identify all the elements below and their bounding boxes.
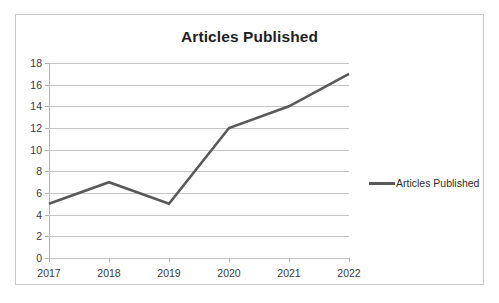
gridline	[49, 258, 349, 259]
y-axis-label: 2	[36, 230, 42, 242]
y-axis-label: 8	[36, 165, 42, 177]
legend-label: Articles Published	[396, 177, 479, 189]
plot-area: 024681012141618 201720182019202020212022	[49, 63, 349, 258]
chart-title: Articles Published	[16, 28, 483, 46]
y-axis-label: 10	[30, 144, 42, 156]
x-axis-label: 2021	[277, 267, 300, 279]
x-axis-tick	[229, 258, 230, 262]
x-axis-label: 2017	[37, 267, 60, 279]
chart-legend: Articles Published	[369, 177, 479, 189]
x-axis-label: 2022	[337, 267, 360, 279]
x-axis-tick	[169, 258, 170, 262]
x-axis-tick	[109, 258, 110, 262]
x-axis-tick	[349, 258, 350, 262]
series-line-articles-published	[49, 63, 349, 258]
legend-line-swatch	[369, 182, 395, 185]
x-axis-label: 2020	[217, 267, 240, 279]
chart-container: Articles Published 024681012141618 20172…	[15, 14, 484, 285]
y-axis-label: 12	[30, 122, 42, 134]
y-axis-label: 16	[30, 79, 42, 91]
x-axis-label: 2018	[97, 267, 120, 279]
y-axis-label: 6	[36, 187, 42, 199]
x-axis-tick	[49, 258, 50, 262]
x-axis-tick	[289, 258, 290, 262]
y-axis-label: 0	[36, 252, 42, 264]
y-axis-label: 4	[36, 209, 42, 221]
y-axis-label: 14	[30, 100, 42, 112]
x-axis-label: 2019	[157, 267, 180, 279]
y-axis-label: 18	[30, 57, 42, 69]
